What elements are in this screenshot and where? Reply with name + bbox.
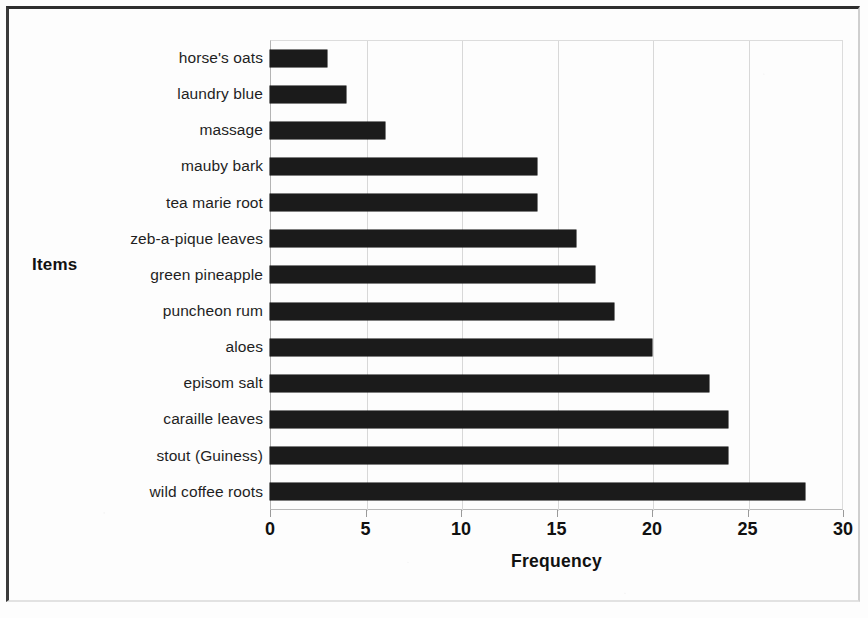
bar (270, 86, 346, 103)
bars-layer (270, 40, 843, 510)
category-label-row: mauby bark (60, 148, 263, 184)
bar-row (270, 365, 843, 401)
y-axis-title: Items (32, 255, 77, 275)
category-label: green pineapple (150, 266, 263, 284)
category-label: mauby bark (181, 157, 263, 175)
bar-row (270, 221, 843, 257)
category-label: tea marie root (166, 194, 263, 212)
category-label-row: stout (Guiness) (60, 438, 263, 474)
category-label: episom salt (184, 374, 264, 392)
category-label-row: puncheon rum (60, 293, 263, 329)
x-tick-25 (748, 510, 749, 517)
bar (270, 375, 709, 392)
bar (270, 122, 385, 139)
category-label-row: caraille leaves (60, 401, 263, 437)
category-label: laundry blue (177, 85, 263, 103)
category-label: massage (199, 121, 263, 139)
bar-row (270, 185, 843, 221)
category-label: zeb-a-pique leaves (130, 230, 263, 248)
bar (270, 230, 576, 247)
bar-row (270, 76, 843, 112)
category-label-row: wild coffee roots (60, 474, 263, 510)
category-label-row: tea marie root (60, 185, 263, 221)
x-tick-label: 0 (265, 519, 275, 540)
x-tick-0 (270, 510, 271, 517)
x-tick-5 (366, 510, 367, 517)
bar (270, 50, 327, 67)
category-label: wild coffee roots (150, 483, 263, 501)
category-label: caraille leaves (163, 410, 263, 428)
x-axis-title: Frequency (270, 551, 843, 572)
category-label-row: aloes (60, 329, 263, 365)
bar-row (270, 438, 843, 474)
category-label-row: massage (60, 112, 263, 148)
bar-row (270, 474, 843, 510)
bar (270, 447, 728, 464)
x-tick-label: 15 (546, 519, 566, 540)
x-tick-label: 5 (360, 519, 370, 540)
bar (270, 339, 652, 356)
horizontal-bar-chart: horse's oatslaundry bluemassagemauby bar… (0, 0, 868, 618)
bar-row (270, 148, 843, 184)
x-tick-30 (843, 510, 844, 517)
bar (270, 483, 805, 500)
category-label-row: green pineapple (60, 257, 263, 293)
bar-row (270, 257, 843, 293)
bar-row (270, 401, 843, 437)
category-label-row: laundry blue (60, 76, 263, 112)
bar (270, 194, 537, 211)
x-tick-label: 20 (642, 519, 662, 540)
bar-row (270, 40, 843, 76)
bar-row (270, 329, 843, 365)
x-axis-tick-labels: 051015202530 (270, 519, 843, 545)
x-tick-label: 10 (451, 519, 471, 540)
bar (270, 303, 614, 320)
x-tick-label: 25 (737, 519, 757, 540)
category-label: stout (Guiness) (156, 447, 263, 465)
x-tick-10 (461, 510, 462, 517)
category-label: aloes (225, 338, 263, 356)
category-label-row: zeb-a-pique leaves (60, 221, 263, 257)
bar (270, 266, 595, 283)
x-tick-15 (557, 510, 558, 517)
category-label: puncheon rum (163, 302, 263, 320)
category-label-row: horse's oats (60, 40, 263, 76)
bar-row (270, 112, 843, 148)
category-axis-labels: horse's oatslaundry bluemassagemauby bar… (60, 40, 263, 510)
bar (270, 158, 537, 175)
bar-row (270, 293, 843, 329)
category-label: horse's oats (179, 49, 263, 67)
x-tick-label: 30 (833, 519, 853, 540)
x-tick-20 (652, 510, 653, 517)
bar (270, 411, 728, 428)
category-label-row: episom salt (60, 365, 263, 401)
